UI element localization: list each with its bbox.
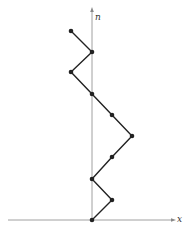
path	[71, 31, 132, 220]
path-points	[69, 29, 135, 223]
path-point	[130, 134, 135, 139]
path-point	[90, 50, 95, 55]
axes	[8, 7, 176, 222]
y-axis-label: n	[95, 12, 101, 22]
path-point	[69, 29, 74, 34]
path-point	[110, 155, 115, 160]
x-axis-arrow-icon	[171, 218, 176, 222]
path-polyline	[71, 31, 132, 220]
path-point	[90, 218, 95, 223]
path-point	[110, 113, 115, 118]
path-point	[90, 177, 95, 182]
x-axis-label: x	[177, 214, 182, 224]
path-point	[90, 92, 95, 97]
lattice-path-diagram: x n	[0, 0, 191, 231]
y-axis-arrow-icon	[90, 7, 94, 12]
path-point	[110, 198, 115, 203]
path-point	[69, 70, 74, 75]
